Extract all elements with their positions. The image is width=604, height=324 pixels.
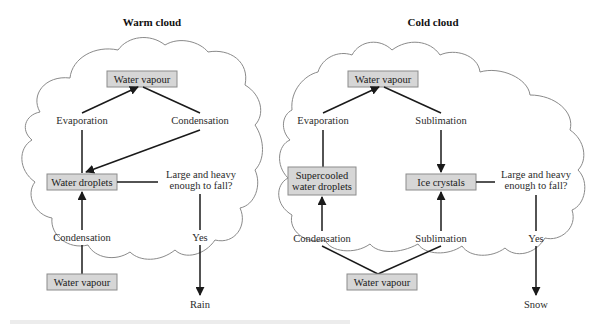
cold-sublimation-v-line — [378, 246, 441, 274]
cold-evaporation-label: Evaporation — [297, 115, 349, 126]
warm-outcome-rain: Rain — [190, 299, 211, 310]
warm-water-droplets-label: Water droplets — [51, 177, 112, 188]
cold-evaporation-arrow — [323, 87, 379, 113]
cold-sublimation-top-label: Sublimation — [415, 115, 467, 126]
cold-sublimation-top-line — [384, 87, 441, 113]
cut-off-caption-line — [10, 320, 350, 324]
warm-condensation-bottom-label: Condensation — [53, 232, 111, 243]
warm-evaporation-arrow — [82, 87, 138, 113]
cold-cloud-title: Cold cloud — [407, 16, 458, 28]
warm-top-water-vapour-label: Water vapour — [114, 74, 171, 85]
warm-condensation-top-line — [143, 87, 200, 113]
cold-ice-crystals-label: Ice crystals — [417, 177, 465, 188]
warm-yes-label: Yes — [192, 232, 207, 243]
cold-question-line1: Large and heavy — [501, 169, 572, 180]
warm-bottom-water-vapour-label: Water vapour — [54, 277, 111, 288]
warm-condensation-top-label: Condensation — [171, 115, 229, 126]
cloud-precipitation-diagram: Warm cloud Water vapour Evaporation Cond… — [0, 0, 604, 324]
warm-condensation-to-droplets-arrow — [86, 130, 200, 172]
cold-outcome-snow: Snow — [524, 299, 548, 310]
cold-condensation-bottom-label: Condensation — [293, 233, 351, 244]
warm-question-line2: enough to fall? — [170, 180, 233, 191]
cold-yes-label: Yes — [528, 233, 543, 244]
cold-supercooled-line2: water droplets — [292, 181, 352, 192]
cold-bottom-water-vapour-label: Water vapour — [354, 277, 411, 288]
cold-supercooled-line1: Supercooled — [296, 170, 349, 181]
warm-cloud-title: Warm cloud — [123, 16, 181, 28]
cold-condensation-v-line — [322, 246, 378, 274]
cold-cloud-outline — [279, 42, 585, 255]
warm-evaporation-label: Evaporation — [56, 115, 108, 126]
cold-sublimation-bottom-label: Sublimation — [415, 233, 467, 244]
warm-question-line1: Large and heavy — [166, 169, 237, 180]
cold-question-line2: enough to fall? — [505, 180, 568, 191]
cold-top-water-vapour-label: Water vapour — [355, 74, 412, 85]
